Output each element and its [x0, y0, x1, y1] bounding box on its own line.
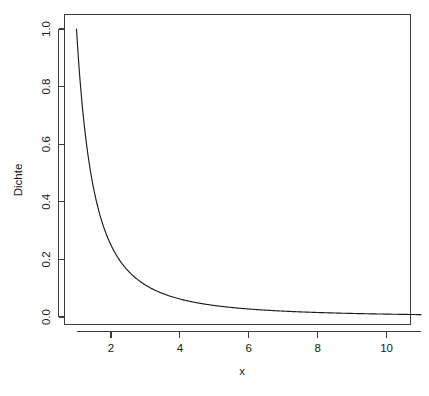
x-tick-label: 4: [177, 342, 184, 354]
x-axis-ticks: [111, 332, 387, 338]
x-axis-tick-labels: 246810: [108, 342, 393, 354]
y-tick-label: 1.0: [40, 21, 52, 37]
y-axis-tick-labels: 0.00.20.40.60.81.0: [40, 21, 52, 325]
y-axis-ticks: [59, 29, 65, 317]
y-tick-label: 0.2: [40, 251, 52, 267]
y-tick-label: 0.8: [40, 79, 52, 95]
density-curve: [77, 29, 422, 315]
y-tick-label: 0.6: [40, 136, 52, 152]
y-tick-label: 0.0: [40, 309, 52, 325]
plot-frame: [65, 15, 411, 325]
chart-canvas: 0.00.20.40.60.81.0 246810 Dichte x: [0, 0, 429, 396]
x-tick-label: 2: [108, 342, 114, 354]
x-axis-title: x: [239, 365, 245, 377]
plot-figure: 0.00.20.40.60.81.0 246810 Dichte x: [0, 0, 429, 396]
y-tick-label: 0.4: [40, 193, 52, 210]
x-tick-label: 10: [380, 342, 393, 354]
x-tick-label: 8: [314, 342, 320, 354]
x-tick-label: 6: [246, 342, 252, 354]
y-axis-title: Dichte: [12, 164, 24, 197]
